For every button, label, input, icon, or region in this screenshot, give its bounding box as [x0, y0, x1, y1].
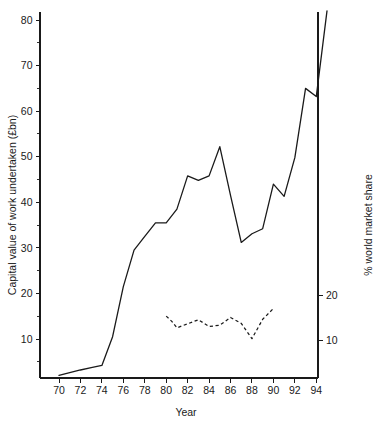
y-axis-tick-label: 80	[21, 14, 33, 26]
x-axis-tick-label: 76	[117, 384, 129, 396]
x-axis-tick-label: 70	[53, 384, 65, 396]
x-axis-tick-label: 94	[310, 384, 322, 396]
x-axis-tick-label: 88	[246, 384, 258, 396]
y-axis-tick-label: 60	[21, 105, 33, 117]
x-axis-tick-label: 92	[289, 384, 301, 396]
x-axis-tick-label: 72	[75, 384, 87, 396]
x-axis-tick-label: 80	[160, 384, 172, 396]
x-axis-tick-label: 84	[203, 384, 215, 396]
chart-canvas: 1020304050607080102070727476788082848688…	[0, 0, 385, 422]
series-group	[59, 11, 327, 376]
y2-axis-tick-label: 20	[326, 289, 338, 301]
y-axis-tick-label: 50	[21, 150, 33, 162]
y-axis-tick-label: 10	[21, 333, 33, 345]
chart-figure: 1020304050607080102070727476788082848688…	[0, 0, 385, 422]
y-axis-tick-label: 40	[21, 196, 33, 208]
y2-axis-tick-label: 10	[326, 334, 338, 346]
x-axis-tick-label: 78	[139, 384, 151, 396]
x-axis-tick-label: 82	[182, 384, 194, 396]
series-line-market-share	[166, 309, 273, 339]
tick-labels-group: 1020304050607080102070727476788082848688…	[21, 14, 338, 396]
y-axis-tick-label: 20	[21, 287, 33, 299]
x-axis-tick-label: 90	[268, 384, 280, 396]
x-axis-tick-label: 74	[96, 384, 108, 396]
y-axis-title: Capital value of work undertaken (£bn)	[6, 115, 18, 295]
y-axis-tick-label: 70	[21, 59, 33, 71]
x-axis-title: Year	[175, 406, 197, 418]
x-axis-tick-label: 86	[225, 384, 237, 396]
series-line-capital-value	[59, 11, 327, 376]
y-axis-tick-label: 30	[21, 242, 33, 254]
y2-axis-title: % world market share	[362, 174, 374, 276]
